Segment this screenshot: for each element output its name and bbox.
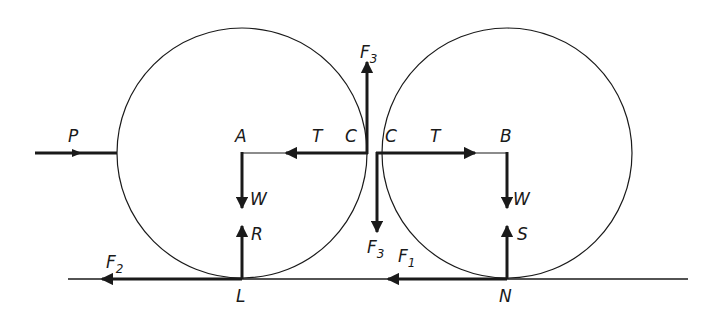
label-w-right: W <box>513 189 531 209</box>
force-p-arrowhead <box>72 149 82 157</box>
label-t-left: T <box>312 126 324 146</box>
label-f1: F1 <box>398 246 415 270</box>
label-f3-bottom: F3 <box>367 237 384 261</box>
label-s: S <box>517 224 528 244</box>
label-c-left: C <box>345 126 357 146</box>
label-c-right: C <box>385 126 397 146</box>
label-n: N <box>499 286 512 306</box>
label-w-left: W <box>250 189 268 209</box>
label-f3-top: F3 <box>360 42 377 66</box>
label-p: P <box>68 126 79 146</box>
label-b: B <box>500 126 512 146</box>
label-t-right: T <box>430 126 442 146</box>
free-body-diagram: P A T C C T B F3 F3 W W R S F1 F2 L N <box>0 0 713 325</box>
label-r: R <box>251 224 263 244</box>
label-l: L <box>236 286 245 306</box>
label-f2: F2 <box>106 252 123 276</box>
label-a: A <box>234 126 247 146</box>
